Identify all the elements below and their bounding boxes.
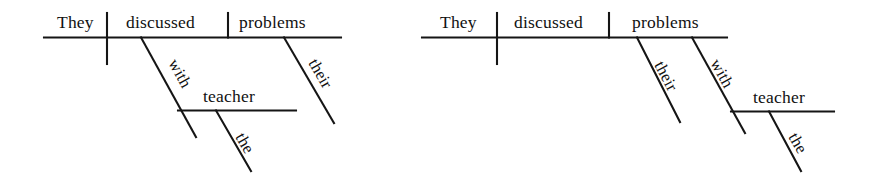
right-word-prep-object: teacher: [753, 89, 805, 107]
right-word-object: problems: [632, 14, 699, 32]
right-word-subject: They: [440, 14, 477, 32]
left-preposition-slant: [141, 38, 196, 138]
left-word-prep-object: teacher: [203, 88, 255, 106]
sentence-diagram-figure: They discussed problems with teacher the…: [0, 0, 874, 184]
right-word-verb: discussed: [514, 14, 583, 32]
left-word-verb: discussed: [126, 14, 195, 32]
left-diagram-lines: [44, 13, 341, 171]
left-word-object: problems: [239, 14, 306, 32]
left-word-subject: They: [57, 14, 94, 32]
